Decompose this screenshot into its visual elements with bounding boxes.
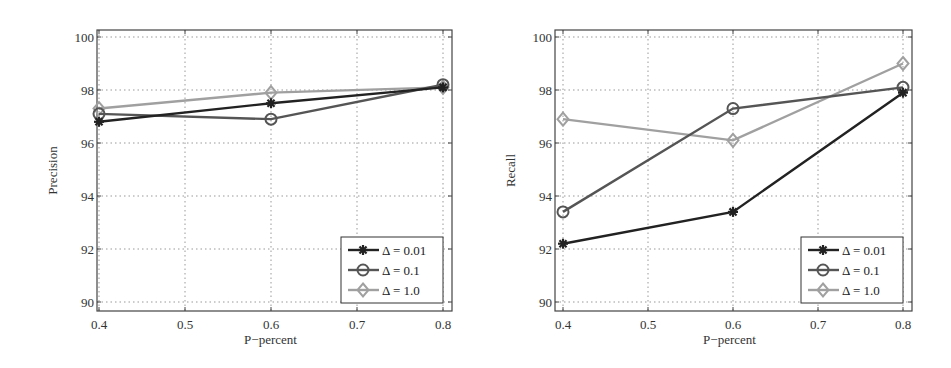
x-axis-label: P−percent [703, 332, 756, 347]
y-tick-label: 96 [81, 136, 95, 151]
legend-label: Δ = 1.0 [382, 283, 420, 298]
y-tick-label: 94 [539, 189, 553, 204]
figure: 0.40.50.60.70.89092949698100P−percentPre… [0, 0, 951, 368]
x-tick-label: 0.7 [349, 317, 366, 332]
y-tick-label: 92 [539, 242, 552, 257]
y-tick-label: 94 [81, 189, 95, 204]
legend-label: Δ = 0.1 [382, 263, 420, 278]
precision-chart: 0.40.50.60.70.89092949698100P−percentPre… [45, 30, 452, 348]
y-tick-label: 90 [539, 295, 552, 310]
x-tick-label: 0.6 [725, 317, 742, 332]
x-tick-label: 0.4 [91, 317, 108, 332]
recall-chart: 0.40.50.60.70.89092949698100P−percentRec… [503, 30, 912, 348]
y-tick-label: 92 [81, 242, 94, 257]
legend-label: Δ = 0.01 [382, 243, 426, 258]
y-tick-label: 100 [75, 30, 95, 45]
legend-label: Δ = 0.1 [842, 263, 880, 278]
x-tick-label: 0.4 [555, 317, 572, 332]
y-tick-label: 98 [81, 83, 94, 98]
legend: Δ = 0.01Δ = 0.1Δ = 1.0 [801, 237, 903, 303]
legend-label: Δ = 0.01 [842, 243, 886, 258]
legend-label: Δ = 1.0 [842, 283, 880, 298]
x-tick-label: 0.7 [810, 317, 827, 332]
y-tick-label: 96 [539, 136, 553, 151]
y-axis-label: Precision [45, 146, 60, 195]
x-axis-label: P−percent [244, 332, 297, 347]
y-tick-label: 100 [533, 30, 553, 45]
legend: Δ = 0.01Δ = 0.1Δ = 1.0 [341, 237, 443, 303]
y-tick-label: 98 [539, 83, 552, 98]
x-tick-label: 0.8 [895, 317, 911, 332]
x-tick-label: 0.8 [435, 317, 451, 332]
x-tick-label: 0.5 [177, 317, 193, 332]
y-tick-label: 90 [81, 295, 94, 310]
x-tick-label: 0.5 [640, 317, 656, 332]
x-tick-label: 0.6 [263, 317, 280, 332]
y-axis-label: Recall [503, 154, 518, 188]
